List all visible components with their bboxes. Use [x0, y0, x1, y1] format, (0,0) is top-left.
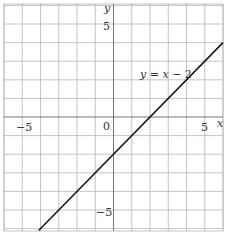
- plotted-line: [39, 43, 223, 231]
- x-tick-label-pos5: 5: [201, 121, 208, 134]
- line-y-equals-x-minus-2: [39, 43, 223, 231]
- origin-label: 0: [103, 120, 110, 133]
- y-tick-label-pos5: 5: [103, 20, 110, 33]
- axes: [4, 4, 223, 231]
- x-axis-label: x: [217, 117, 224, 130]
- equation-label: y = x − 2: [139, 68, 192, 81]
- y-axis-label: y: [103, 2, 111, 15]
- coordinate-plane: y x 0 −5 5 5 −5 y = x − 2: [0, 0, 230, 235]
- y-tick-label-neg5: −5: [96, 206, 112, 219]
- x-tick-label-neg5: −5: [16, 121, 32, 134]
